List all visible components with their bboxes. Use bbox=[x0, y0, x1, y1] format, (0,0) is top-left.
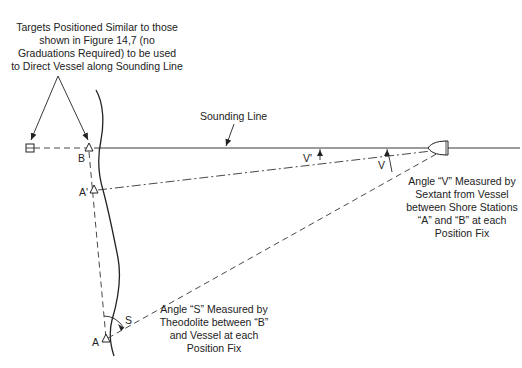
angle-s-label: S bbox=[125, 314, 132, 326]
angle-v-arrowhead bbox=[384, 150, 390, 156]
triangle-target-icon bbox=[85, 143, 93, 151]
line-a-to-vessel bbox=[108, 152, 440, 338]
targets-note-line-2: shown in Figure 14,7 (no bbox=[39, 34, 155, 46]
square-target-icon bbox=[26, 144, 34, 152]
station-a-prime-label: A' bbox=[79, 186, 88, 198]
leader-arrow-front-target bbox=[58, 76, 88, 140]
angle-v-note: Angle “V” Measured by Sextant from Vesse… bbox=[406, 175, 518, 239]
target-leader-arrows bbox=[31, 76, 88, 140]
targets-note: Targets Positioned Similar to those show… bbox=[11, 21, 183, 72]
angle-s-arrowhead bbox=[118, 324, 124, 331]
triangle-station-icon bbox=[90, 185, 98, 193]
angle-v-prime: V' bbox=[303, 149, 323, 164]
angle-v-prime-label: V' bbox=[303, 152, 312, 164]
angle-s-note-line-1: Angle “S” Measured by bbox=[160, 303, 268, 315]
sounding-line-label: Sounding Line bbox=[200, 110, 267, 122]
shore-baseline-b-to-a bbox=[89, 152, 106, 338]
angle-v-prime-arrowhead bbox=[317, 150, 323, 156]
boat-icon bbox=[428, 141, 448, 155]
station-a-label: A bbox=[92, 336, 99, 348]
angle-v-label: V bbox=[378, 159, 385, 171]
station-a: A bbox=[92, 334, 110, 348]
station-b-label: B bbox=[78, 152, 85, 164]
angle-s-note-line-4: Position Fix bbox=[187, 342, 242, 354]
sounding-line-leader bbox=[226, 124, 234, 146]
station-b: B bbox=[78, 143, 93, 164]
angle-v: V bbox=[378, 149, 392, 172]
targets-note-line-3: Graduations Required) to be used bbox=[18, 47, 176, 59]
angle-v-note-line-4: “A” and “B” at each bbox=[418, 214, 507, 226]
leader-arrow-rear-target bbox=[31, 76, 58, 140]
angle-v-note-line-5: Position Fix bbox=[435, 227, 490, 239]
targets-note-line-4: to Direct Vessel along Sounding Line bbox=[11, 60, 183, 72]
angle-s-note: Angle “S” Measured by Theodolite between… bbox=[160, 303, 269, 354]
targets-note-line-1: Targets Positioned Similar to those bbox=[16, 21, 178, 33]
station-a-prime: A' bbox=[79, 185, 98, 198]
angle-v-note-line-1: Angle “V” Measured by bbox=[408, 175, 516, 187]
angle-v-note-line-2: Sextant from Vessel bbox=[415, 188, 508, 200]
angle-s-note-line-3: and Vessel at each bbox=[170, 329, 259, 341]
sounding-line-diagram: Targets Positioned Similar to those show… bbox=[0, 0, 522, 368]
angle-v-note-line-3: between Shore Stations bbox=[406, 201, 518, 213]
angle-s: S bbox=[104, 314, 132, 331]
angle-s-note-line-2: Theodolite between “B” bbox=[160, 316, 269, 328]
